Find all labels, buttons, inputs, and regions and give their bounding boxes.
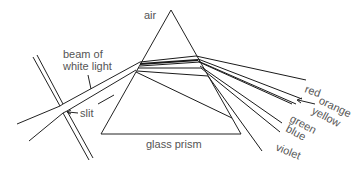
label-violet: violet	[274, 141, 302, 162]
label-red: red	[303, 83, 322, 100]
prism-diagram: air beam of white light slit glass prism…	[0, 0, 364, 173]
white-light-beam	[17, 62, 140, 141]
label-air: air	[144, 9, 157, 21]
label-slit: slit	[80, 107, 93, 119]
orange-pointer	[298, 100, 315, 104]
label-beam-1: beam of	[63, 48, 104, 60]
label-prism: glass prism	[146, 138, 202, 150]
label-beam-2: white light	[62, 60, 112, 72]
ray-blue	[201, 68, 280, 132]
rays-inside-prism	[136, 56, 232, 118]
direction-arrow	[98, 95, 114, 104]
beam-pointer	[88, 75, 91, 89]
slit-plate-upper	[33, 55, 63, 106]
exit-rays	[196, 56, 306, 151]
ray-green	[200, 66, 282, 123]
ray-orange	[198, 59, 302, 99]
